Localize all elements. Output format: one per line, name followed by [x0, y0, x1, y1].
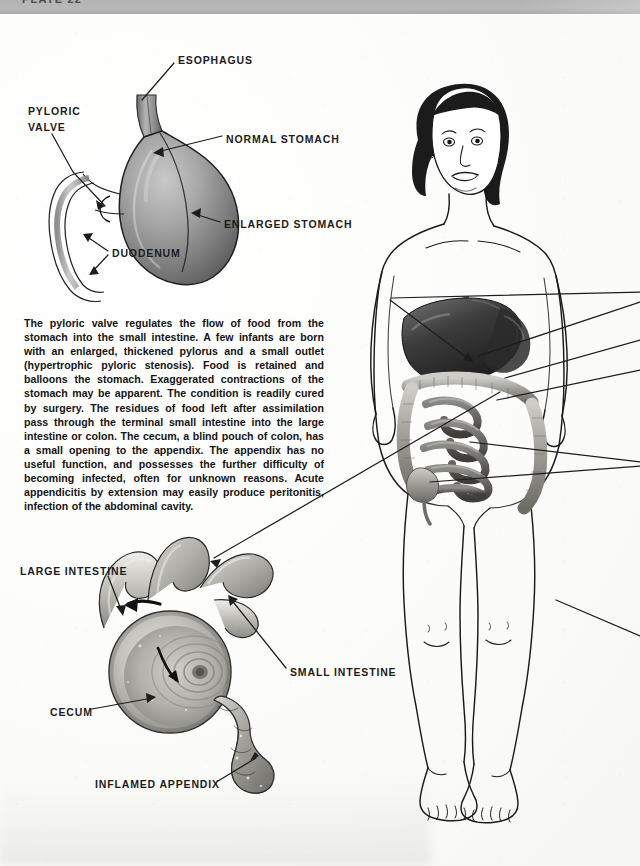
leg-left-inner — [460, 526, 466, 762]
stomach-illustration — [49, 63, 256, 304]
label-pyloric-valve-line1: PYLORIC — [28, 105, 81, 117]
label-small-intestine: SMALL INTESTINE — [290, 666, 396, 678]
leader-offpage-7 — [556, 600, 640, 636]
transverse-colon — [408, 378, 532, 402]
explanatory-paragraph: The pyloric valve regulates the flow of … — [24, 316, 324, 513]
abdominal-organs — [401, 238, 545, 524]
clavicle-right — [478, 241, 520, 252]
stomach-body-shape — [119, 131, 238, 285]
label-duodenum: DUODENUM — [112, 247, 181, 259]
leg-right-inner — [473, 528, 479, 764]
label-esophagus: ESOPHAGUS — [178, 54, 253, 66]
cecum-in-body — [407, 468, 439, 502]
leg-right-outer — [510, 496, 535, 770]
arm-right-outer — [556, 276, 567, 416]
knee-left — [424, 642, 449, 647]
label-pyloric-valve-line2: VALVE — [28, 121, 66, 133]
ankle-right — [492, 770, 510, 777]
groin-right — [474, 508, 490, 528]
label-cecum: CECUM — [50, 706, 93, 718]
leader-offpage-1 — [391, 292, 640, 298]
leg-left-outer — [403, 494, 428, 768]
arm-left-outer — [371, 272, 382, 414]
clavicle-left — [426, 241, 468, 248]
ankle-left — [428, 768, 446, 775]
label-large-intestine: LARGE INTESTINE — [20, 565, 127, 577]
foot-left — [420, 762, 477, 821]
scanned-page: PLATE 22 — [0, 0, 640, 866]
label-inflamed-appendix: INFLAMED APPENDIX — [95, 778, 220, 790]
leader-pyloric-valve — [52, 134, 105, 206]
foot-right — [461, 764, 518, 823]
label-enlarged-stomach: ENLARGED STOMACH — [224, 218, 352, 230]
label-normal-stomach: NORMAL STOMACH — [226, 133, 340, 145]
neck-left — [444, 194, 449, 224]
groin-left — [448, 506, 464, 526]
leader-esophagus — [142, 63, 174, 100]
arm-left-inner — [388, 276, 394, 408]
knee-right — [486, 640, 511, 645]
